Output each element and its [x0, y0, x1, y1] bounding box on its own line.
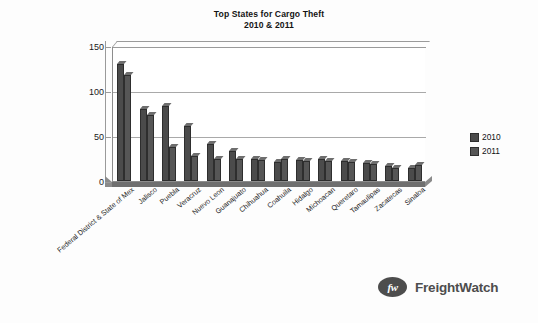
- chart-legend: 2010 2011: [470, 130, 501, 158]
- bar-2011: [214, 159, 221, 182]
- bar-group: [180, 46, 202, 181]
- bar-2010: [296, 160, 303, 181]
- bar-front-face: [303, 161, 310, 181]
- bar-2011: [236, 159, 243, 182]
- bar-group: [337, 46, 359, 181]
- legend-item-2010[interactable]: 2010: [470, 130, 501, 144]
- bar-group: [359, 46, 381, 181]
- bar-2011: [124, 75, 131, 181]
- bar-front-face: [363, 163, 370, 181]
- bar-2010: [363, 163, 370, 181]
- bar-front-face: [191, 156, 198, 181]
- chart-title: Top States for Cargo Theft: [0, 9, 538, 20]
- legend-swatch-2010-icon: [470, 133, 479, 142]
- bar-front-face: [318, 159, 325, 181]
- bar-series-container: [113, 46, 426, 181]
- bar-front-face: [140, 109, 147, 181]
- legend-label-2010: 2010: [482, 132, 501, 142]
- bar-front-face: [296, 160, 303, 181]
- bar-front-face: [117, 64, 124, 181]
- legend-swatch-2011-icon: [470, 147, 479, 156]
- bar-front-face: [392, 168, 399, 182]
- bar-front-face: [214, 159, 221, 182]
- bar-front-face: [258, 160, 265, 181]
- bar-front-face: [341, 161, 348, 181]
- bar-2011: [258, 160, 265, 181]
- bar-front-face: [236, 159, 243, 182]
- bar-2010: [341, 161, 348, 181]
- bar-front-face: [147, 115, 154, 181]
- bar-front-face: [281, 159, 288, 181]
- bar-2011: [191, 156, 198, 181]
- bar-group: [158, 46, 180, 181]
- bar-2011: [147, 115, 154, 181]
- bar-2010: [184, 126, 191, 181]
- bar-2011: [169, 147, 176, 181]
- freightwatch-wordmark: FreightWatch: [415, 280, 498, 295]
- bar-group: [292, 46, 314, 181]
- bar-front-face: [408, 168, 415, 181]
- bar-group: [381, 46, 403, 181]
- plot-area: [112, 47, 425, 182]
- title-block: Top States for Cargo Theft 2010 & 2011: [0, 9, 538, 31]
- plot-wrapper: 050100150: [112, 47, 425, 182]
- legend-item-2011[interactable]: 2011: [470, 144, 501, 158]
- plot-floor: [112, 182, 425, 187]
- bar-2011: [325, 161, 332, 181]
- bar-2010: [117, 64, 124, 181]
- bar-front-face: [274, 162, 281, 181]
- bar-2011: [348, 162, 355, 181]
- freightwatch-mark-text: fw: [387, 282, 397, 293]
- bar-front-face: [124, 75, 131, 181]
- y-tick-mark-50: [105, 137, 111, 138]
- bar-front-face: [207, 144, 214, 181]
- bar-2010: [162, 106, 169, 181]
- bar-2010: [207, 144, 214, 181]
- freightwatch-mark-icon: fw: [378, 277, 407, 297]
- bar-group: [225, 46, 247, 181]
- bar-front-face: [162, 106, 169, 181]
- y-tick-mark-150: [105, 47, 111, 48]
- bar-front-face: [415, 165, 422, 181]
- y-tick-mark-0: [105, 182, 111, 183]
- plot-back-wall-left: [105, 41, 112, 182]
- bar-front-face: [184, 126, 191, 181]
- plot-floor-right-edge: [425, 176, 432, 187]
- bar-group: [113, 46, 135, 181]
- bar-2010: [318, 159, 325, 181]
- bar-2010: [140, 109, 147, 181]
- bar-front-face: [229, 151, 236, 181]
- bar-2011: [415, 165, 422, 181]
- bar-group: [270, 46, 292, 181]
- bar-front-face: [251, 159, 258, 181]
- bar-2011: [392, 168, 399, 182]
- bar-front-face: [348, 162, 355, 181]
- bar-2011: [281, 159, 288, 181]
- chart-subtitle: 2010 & 2011: [0, 20, 538, 31]
- bar-front-face: [169, 147, 176, 181]
- bar-2010: [229, 151, 236, 181]
- bar-group: [202, 46, 224, 181]
- bar-2011: [303, 161, 310, 181]
- freightwatch-logo: fw FreightWatch: [378, 277, 498, 297]
- bar-front-face: [370, 164, 377, 181]
- cargo-theft-chart: Top States for Cargo Theft 2010 & 2011 0…: [0, 0, 538, 323]
- bar-2011: [370, 164, 377, 181]
- legend-label-2011: 2011: [482, 146, 500, 156]
- bar-group: [135, 46, 157, 181]
- bar-2010: [408, 168, 415, 181]
- y-tick-mark-100: [105, 92, 111, 93]
- bar-front-face: [325, 161, 332, 181]
- bar-2010: [251, 159, 258, 181]
- bar-group: [247, 46, 269, 181]
- bar-group: [314, 46, 336, 181]
- bar-2010: [274, 162, 281, 181]
- bar-group: [404, 46, 426, 181]
